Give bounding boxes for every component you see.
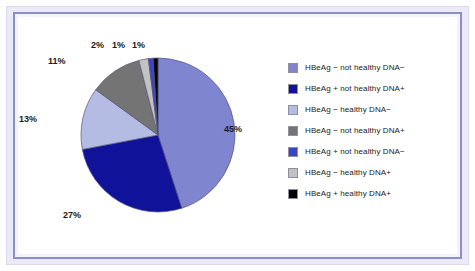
plot-area: 45% 27% 13% 11% 2% 1% 1% HBeAg − not hea… (18, 17, 457, 254)
legend-item-hbeag-pos-not-healthy-dna-neg: HBeAg + not healthy DNA− (288, 141, 448, 162)
pie-label-2: 2% (91, 41, 104, 50)
legend-label-2: HBeAg + not healthy DNA+ (305, 84, 405, 93)
legend-swatch-icon-2 (288, 84, 298, 94)
legend: HBeAg − not healthy DNA− HBeAg + not hea… (288, 57, 448, 204)
legend-swatch-icon-5 (288, 147, 298, 157)
pie-label-11: 11% (48, 57, 66, 66)
legend-label-1: HBeAg − not healthy DNA− (305, 63, 405, 72)
pie-label-27: 27% (63, 211, 81, 220)
legend-item-hbeag-pos-not-healthy-dna-pos: HBeAg + not healthy DNA+ (288, 78, 448, 99)
pie-label-1-royal: 1% (112, 41, 125, 50)
legend-item-hbeag-neg-healthy-dna-neg: HBeAg − healthy DNA− (288, 99, 448, 120)
legend-item-hbeag-pos-healthy-dna-pos: HBeAg + healthy DNA+ (288, 183, 448, 204)
pie-label-13: 13% (19, 115, 37, 124)
pie-chart-figure: 45% 27% 13% 11% 2% 1% 1% HBeAg − not hea… (0, 0, 475, 271)
legend-label-7: HBeAg + healthy DNA+ (305, 189, 391, 198)
legend-item-hbeag-neg-not-healthy-dna-neg: HBeAg − not healthy DNA− (288, 57, 448, 78)
legend-label-5: HBeAg + not healthy DNA− (305, 147, 405, 156)
pie-svg (80, 57, 236, 213)
legend-swatch-icon-7 (288, 189, 298, 199)
legend-item-hbeag-neg-healthy-dna-pos: HBeAg − healthy DNA+ (288, 162, 448, 183)
legend-swatch-icon-3 (288, 105, 298, 115)
pie-label-1-black: 1% (132, 41, 145, 50)
pie-graphic (80, 57, 236, 213)
legend-swatch-icon-6 (288, 168, 298, 178)
legend-label-6: HBeAg − healthy DNA+ (305, 168, 391, 177)
legend-label-3: HBeAg − healthy DNA− (305, 105, 391, 114)
pie-label-45: 45% (224, 125, 242, 134)
legend-item-hbeag-neg-not-healthy-dna-pos: HBeAg − not healthy DNA+ (288, 120, 448, 141)
legend-swatch-icon-4 (288, 126, 298, 136)
legend-swatch-icon-1 (288, 63, 298, 73)
legend-label-4: HBeAg − not healthy DNA+ (305, 126, 405, 135)
